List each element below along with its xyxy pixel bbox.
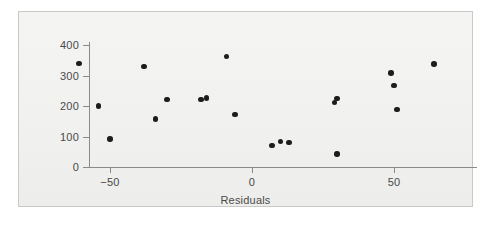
data-point [394,107,400,113]
data-point [334,151,340,157]
data-point [286,140,292,146]
plot-frame: 0100200300400 −50050 Residuals [18,11,473,207]
data-point [164,97,170,103]
data-point [96,103,102,109]
data-point [388,70,394,76]
data-point [153,116,159,122]
data-point [269,143,275,149]
data-point [334,96,340,102]
data-point [232,112,238,118]
scatter-plot-figure: 0100200300400 −50050 Residuals [0,0,492,225]
data-point [224,54,230,60]
data-point [391,83,397,89]
data-point [431,61,437,67]
data-point [278,139,284,145]
data-point [141,64,147,70]
data-point [107,136,113,142]
data-point [198,97,204,103]
data-point [76,61,82,67]
x-axis-title: Residuals [19,194,472,206]
data-points-layer [19,12,472,206]
data-point [204,95,210,101]
